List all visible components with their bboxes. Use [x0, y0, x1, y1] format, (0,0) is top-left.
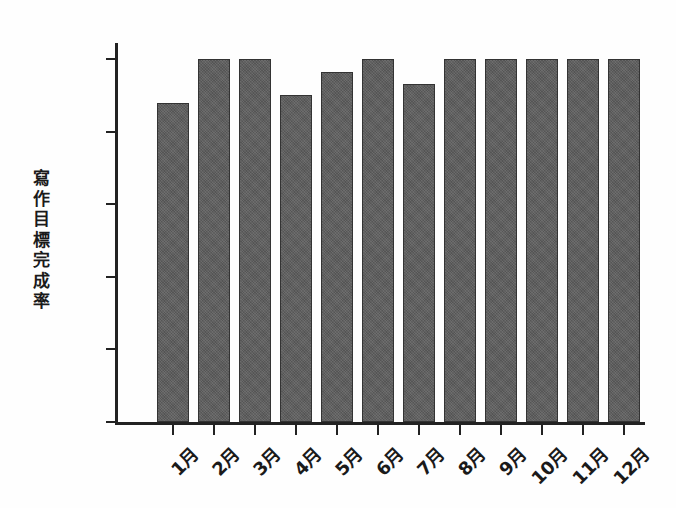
- bar: [198, 59, 230, 422]
- x-tick-mark: [213, 424, 215, 435]
- x-axis-line: [115, 422, 645, 425]
- bar: [567, 59, 599, 422]
- y-axis-title-char: 目: [26, 209, 56, 230]
- x-tick-mark: [500, 424, 502, 435]
- x-tick-mark: [623, 424, 625, 435]
- y-axis-line: [115, 43, 118, 425]
- x-tick-mark: [377, 424, 379, 435]
- y-axis-title-char: 標: [26, 230, 56, 251]
- bar-chart-figure: 寫作目標完成率 020%40%60%80%100% 1月2月3月4月5月6月7月…: [0, 0, 676, 508]
- x-tick-mark: [582, 424, 584, 435]
- y-tick-mark: [106, 203, 115, 205]
- y-axis-title-char: 成: [26, 271, 56, 292]
- x-tick-mark: [336, 424, 338, 435]
- bar: [362, 59, 394, 422]
- x-tick-mark: [254, 424, 256, 435]
- bar: [403, 84, 435, 422]
- y-axis-title-char: 寫: [26, 168, 56, 189]
- x-tick-mark: [541, 424, 543, 435]
- plot-area: 020%40%60%80%100% 1月2月3月4月5月6月7月8月9月10月1…: [115, 43, 645, 425]
- bar: [526, 59, 558, 422]
- x-tick-mark: [459, 424, 461, 435]
- y-axis-title-char: 完: [26, 250, 56, 271]
- y-axis-title-char: 作: [26, 189, 56, 210]
- x-tick-mark: [295, 424, 297, 435]
- bar: [485, 59, 517, 422]
- y-tick-mark: [106, 276, 115, 278]
- bar: [239, 59, 271, 422]
- bar: [444, 59, 476, 422]
- y-tick-mark: [106, 131, 115, 133]
- bar: [157, 103, 189, 422]
- y-tick-mark: [106, 421, 115, 423]
- x-tick-mark: [418, 424, 420, 435]
- y-axis-title: 寫作目標完成率: [26, 168, 56, 312]
- bar: [280, 95, 312, 422]
- y-tick-mark: [106, 348, 115, 350]
- y-tick-mark: [106, 58, 115, 60]
- bar: [608, 59, 640, 422]
- y-axis-title-char: 率: [26, 291, 56, 312]
- bar: [321, 72, 353, 422]
- x-tick-mark: [172, 424, 174, 435]
